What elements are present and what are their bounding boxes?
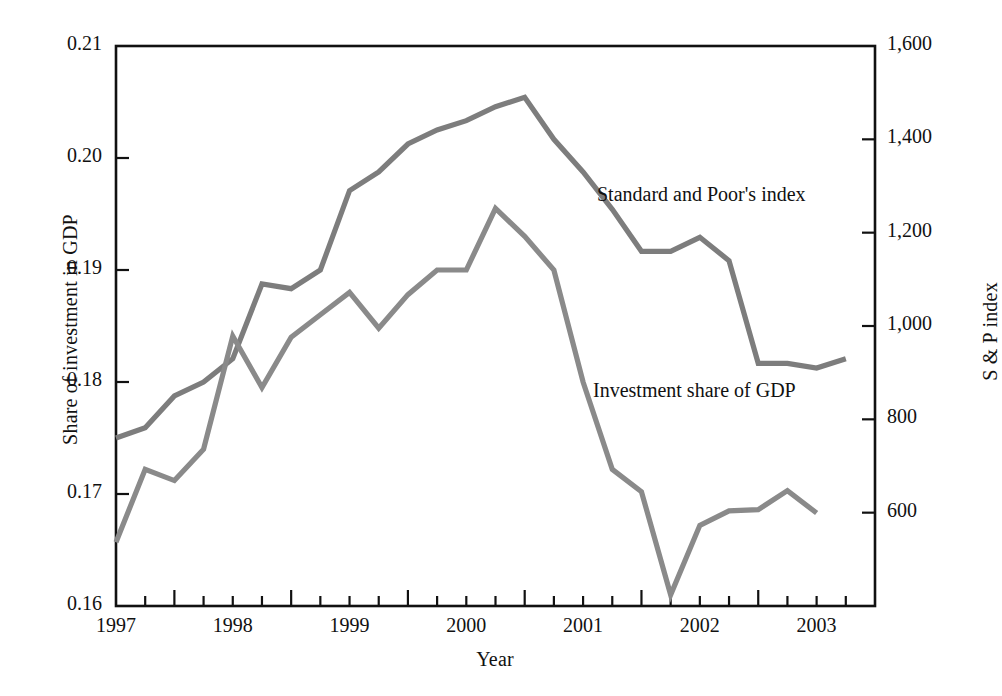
y-axis-right-tick-label: 1,400	[887, 125, 967, 148]
x-axis-title: Year	[0, 648, 990, 671]
x-axis-tick-label: 1999	[310, 614, 390, 637]
x-axis-tick-label: 1998	[193, 614, 273, 637]
series-annotation-sp-index: Standard and Poor's index	[597, 183, 806, 206]
x-axis-tick-label: 2000	[426, 614, 506, 637]
x-axis-tick-label: 2001	[543, 614, 623, 637]
y-axis-right-tick-label: 600	[887, 499, 967, 522]
y-axis-left-title: Share of investment in GDP	[59, 200, 82, 460]
series-annotation-investment-share: Investment share of GDP	[593, 379, 796, 402]
x-axis-tick-label: 1997	[76, 614, 156, 637]
y-axis-left-tick-label: 0.21	[32, 32, 102, 55]
y-axis-left-tick-label: 0.16	[32, 592, 102, 615]
y-axis-right-tick-label: 1,000	[887, 312, 967, 335]
y-axis-right-tick-label: 800	[887, 405, 967, 428]
y-axis-right-tick-label: 1,200	[887, 219, 967, 242]
y-axis-left-tick-label: 0.17	[32, 480, 102, 503]
y-axis-left-tick-label: 0.18	[32, 368, 102, 391]
y-axis-left-tick-label: 0.19	[32, 256, 102, 279]
y-axis-right-tick-label: 1,600	[887, 32, 967, 55]
y-axis-left-tick-label: 0.20	[32, 144, 102, 167]
plot-frame	[116, 46, 875, 606]
x-axis-tick-label: 2003	[777, 614, 857, 637]
y-axis-right-title: S & P index	[979, 202, 1002, 462]
x-axis-tick-label: 2002	[660, 614, 740, 637]
